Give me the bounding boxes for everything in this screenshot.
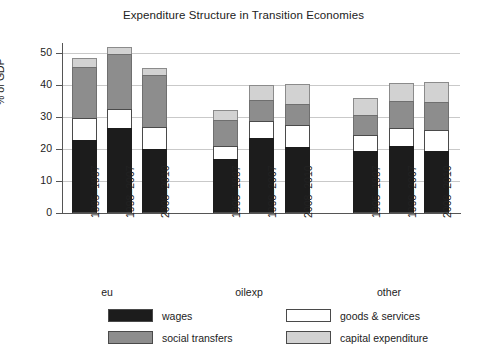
plot-area (63, 47, 460, 213)
legend-label: wages (162, 310, 192, 322)
y-axis-label: % of GDP (0, 58, 6, 105)
social-transfers-swatch (108, 331, 153, 344)
bar-segment-capital-expenditure (389, 83, 414, 101)
x-tick-label: 1995–1997 (230, 165, 242, 218)
bar-segment-goods-services (107, 109, 132, 128)
bar-segment-capital-expenditure (285, 84, 310, 103)
y-tick-mark (56, 53, 62, 54)
group-label-eu: eu (67, 286, 147, 298)
bar-segment-social-transfers (213, 120, 238, 145)
y-tick-label: 30 (30, 110, 52, 122)
y-tick-label: 20 (30, 142, 52, 154)
x-axis-line (62, 213, 461, 214)
bar-segment-capital-expenditure (424, 82, 449, 102)
x-tick-label: 1995–1997 (89, 165, 101, 218)
legend-label: capital expenditure (340, 332, 428, 344)
bar-segment-goods-services (213, 146, 238, 159)
y-tick-mark (56, 213, 62, 214)
x-tick-label: 1998–2007 (124, 165, 136, 218)
y-tick-mark (56, 149, 62, 150)
capital-expenditure-swatch (286, 331, 331, 344)
bar-segment-social-transfers (249, 100, 274, 121)
bar-segment-social-transfers (107, 54, 132, 109)
legend-item[interactable]: social transfers (108, 331, 233, 344)
wages-swatch (108, 309, 153, 322)
legend-item[interactable]: capital expenditure (286, 331, 428, 344)
bar-segment-goods-services (142, 127, 167, 148)
bar-segment-goods-services (72, 118, 97, 140)
y-tick-mark (56, 117, 62, 118)
bar-segment-capital-expenditure (107, 47, 132, 54)
bar-segment-capital-expenditure (249, 85, 274, 99)
bar-segment-goods-services (249, 121, 274, 138)
goods-services-swatch (286, 309, 331, 322)
bar-segment-goods-services (389, 128, 414, 145)
bar-segment-goods-services (424, 130, 449, 151)
x-tick-label: 1998–2007 (406, 165, 418, 218)
bar-segment-social-transfers (424, 102, 449, 130)
bar-segment-capital-expenditure (353, 98, 378, 114)
y-tick-label: 50 (30, 46, 52, 58)
bar-segment-capital-expenditure (72, 58, 97, 67)
x-tick-label: 1995–1997 (370, 165, 382, 218)
chart-legend: wagessocial transfersgoods & servicescap… (108, 309, 448, 353)
chart-title: Expenditure Structure in Transition Econ… (0, 9, 487, 21)
bar-segment-social-transfers (142, 75, 167, 127)
bar-segment-capital-expenditure (142, 68, 167, 76)
x-tick-label: 2008–2010 (302, 165, 314, 218)
bar-segment-goods-services (353, 135, 378, 151)
bar-segment-social-transfers (353, 115, 378, 135)
bar-segment-social-transfers (285, 104, 310, 125)
y-tick-mark (56, 181, 62, 182)
bar-segment-capital-expenditure (213, 110, 238, 121)
legend-label: goods & services (340, 310, 420, 322)
x-tick-label: 2008–2010 (441, 165, 453, 218)
y-tick-label: 40 (30, 78, 52, 90)
legend-item[interactable]: wages (108, 309, 192, 322)
bar-segment-social-transfers (389, 101, 414, 128)
bar-segment-social-transfers (72, 67, 97, 118)
y-tick-mark (56, 85, 62, 86)
x-tick-label: 1998–2007 (266, 165, 278, 218)
group-label-oilexp: oilexp (209, 286, 289, 298)
group-label-other: other (349, 286, 429, 298)
bar-segment-goods-services (285, 125, 310, 147)
y-tick-label: 10 (30, 174, 52, 186)
y-tick-label: 0 (30, 206, 52, 218)
x-tick-label: 2008–2010 (159, 165, 171, 218)
chart-root: Expenditure Structure in Transition Econ… (0, 0, 487, 361)
legend-label: social transfers (162, 332, 233, 344)
legend-item[interactable]: goods & services (286, 309, 420, 322)
